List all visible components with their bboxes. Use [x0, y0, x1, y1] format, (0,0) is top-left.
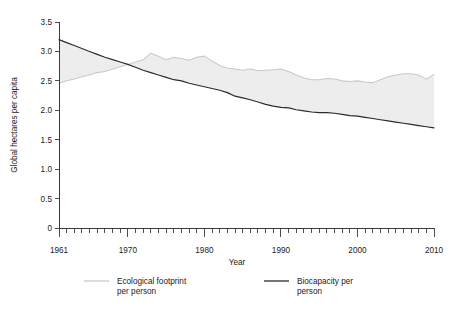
legend-label-biocapacity-line2: person [297, 287, 322, 296]
legend-label-footprint-line1: Ecological footprint [117, 277, 187, 286]
x-tick-label: 1970 [119, 246, 138, 255]
y-tick-label: 2.5 [41, 77, 53, 86]
y-axis-title: Global hectares per capita [10, 77, 19, 173]
y-tick-label: 3.0 [41, 47, 53, 56]
x-tick-labels-group: 196119701980199020002010 [50, 246, 444, 255]
chart-svg: 00.51.01.52.02.53.03.5 19611970198019902… [0, 0, 453, 312]
chart-container: 00.51.01.52.02.53.03.5 19611970198019902… [0, 0, 453, 312]
x-tick-label: 1990 [272, 246, 291, 255]
y-tick-label: 0 [47, 224, 52, 233]
y-tick-label: 2.0 [41, 106, 53, 115]
x-tick-label: 2010 [425, 246, 444, 255]
tick-marks-group [55, 22, 434, 237]
overshoot-band-group [59, 40, 434, 128]
y-tick-label: 1.5 [41, 136, 53, 145]
legend: Ecological footprint per person Biocapac… [84, 277, 353, 296]
x-tick-label: 1961 [50, 246, 69, 255]
x-tick-label: 2000 [348, 246, 367, 255]
y-tick-label: 0.5 [41, 195, 53, 204]
legend-label-biocapacity-line1: Biocapacity per [297, 277, 353, 286]
legend-label-footprint-line2: per person [117, 287, 157, 296]
y-tick-label: 3.5 [41, 18, 53, 27]
axes-group [59, 22, 434, 228]
y-tick-label: 1.0 [41, 165, 53, 174]
y-tick-labels-group: 00.51.01.52.02.53.03.5 [41, 18, 53, 233]
x-axis-title: Year [229, 258, 246, 267]
x-tick-label: 1980 [195, 246, 214, 255]
overshoot-area [59, 40, 434, 128]
